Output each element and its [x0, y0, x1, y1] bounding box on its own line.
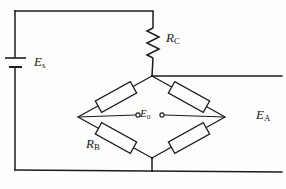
label-bridge-resistor: RB [86, 137, 100, 152]
label-rc-symbol: R [166, 30, 174, 45]
resistor-bottom-right-body [168, 123, 209, 154]
label-eo-symbol: E [140, 107, 147, 119]
resistor-bottom-left [95, 123, 136, 154]
circuit-diagram [0, 0, 286, 189]
resistor-top-left-body [95, 82, 136, 113]
label-es-subscript: s [42, 60, 45, 70]
bridge-arms [78, 76, 225, 158]
label-series-resistor: RC [166, 31, 180, 46]
wire-bottom [15, 170, 282, 172]
label-excitation-voltage: EA [256, 108, 270, 123]
output-terminal-right [160, 113, 164, 117]
resistor-bottom-left-body [95, 123, 136, 154]
label-rb-symbol: R [86, 136, 94, 151]
output-branch [78, 115, 225, 117]
resistor-rc-zigzag [147, 28, 159, 58]
wire-output-right [164, 115, 225, 117]
label-rc-subscript: C [174, 36, 180, 46]
resistor-top-right-body [168, 82, 209, 113]
label-output-voltage: Eo [140, 108, 150, 121]
resistor-rc [147, 11, 159, 76]
junctions [151, 75, 153, 159]
source-loop [15, 11, 282, 172]
resistor-top-right [168, 82, 209, 113]
label-rb-subscript: B [94, 142, 100, 152]
label-ea-subscript: A [264, 113, 270, 123]
label-eo-subscript: o [147, 112, 151, 121]
label-es-symbol: E [34, 54, 42, 69]
wire-output-left [78, 115, 136, 117]
label-source-voltage: Es [34, 55, 45, 70]
label-ea-symbol: E [256, 107, 264, 122]
resistor-rc-lead-bottom [152, 58, 153, 76]
battery-symbol [5, 58, 26, 67]
resistor-bottom-right [168, 123, 209, 154]
junction-bridge-top [151, 75, 153, 77]
resistor-top-left [95, 82, 136, 113]
junction-bridge-bottom [151, 157, 153, 159]
